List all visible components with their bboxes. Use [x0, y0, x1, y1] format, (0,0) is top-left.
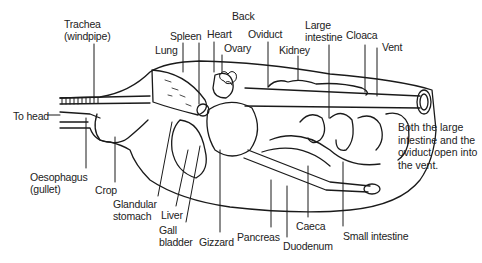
label-oesophagus: Oesophagus (gullet)	[30, 171, 88, 195]
label-caeca: Caeca	[296, 220, 325, 232]
lung-hatching	[165, 80, 191, 106]
label-duodenum: Duodenum	[283, 240, 333, 252]
label-glandular-stomach: Glandular stomach	[113, 198, 157, 222]
label-crop: Crop	[95, 184, 117, 196]
label-small-intestine: Small intestine	[343, 230, 408, 242]
label-to-head: To head	[13, 110, 49, 122]
vent-note: Both the large intestine and the oviduct…	[398, 121, 482, 171]
label-kidney: Kidney	[279, 44, 310, 56]
oesophagus	[60, 112, 100, 122]
crop	[95, 114, 148, 143]
label-pancreas: Pancreas	[237, 231, 280, 243]
small-intestine-coils	[300, 113, 409, 160]
label-back: Back	[232, 10, 255, 22]
lung	[152, 70, 206, 115]
label-gall-bladder: Gall bladder	[159, 224, 193, 248]
label-gizzard: Gizzard	[199, 236, 234, 248]
label-ovary: Ovary	[224, 42, 251, 54]
leader-lines	[48, 42, 377, 237]
label-liver: Liver	[161, 209, 183, 221]
label-trachea: Trachea (windpipe)	[64, 18, 110, 42]
gizzard	[207, 102, 258, 156]
heart	[213, 73, 233, 98]
liver	[172, 120, 207, 178]
duodenum	[244, 150, 370, 192]
label-lung: Lung	[155, 44, 178, 56]
label-spleen: Spleen	[170, 30, 202, 42]
large-intestine-tube	[245, 88, 420, 108]
label-oviduct: Oviduct	[248, 28, 282, 40]
caeca-end	[364, 184, 380, 194]
label-large-intestine: Large intestine	[305, 19, 342, 43]
label-cloaca: Cloaca	[346, 29, 377, 41]
label-heart: Heart	[207, 28, 232, 40]
label-vent: Vent	[382, 41, 402, 53]
